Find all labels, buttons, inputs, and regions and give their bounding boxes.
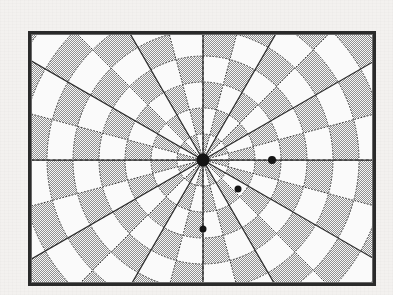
figure-frame [28,31,376,286]
scanned-page [0,0,393,295]
polar-checkerboard-plot [31,34,373,283]
